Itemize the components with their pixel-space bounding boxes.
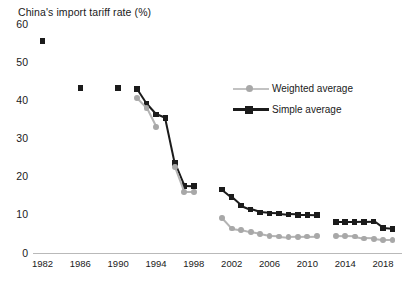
y-tick-label: 60: [2, 19, 28, 30]
x-tick-label: 1998: [174, 259, 214, 269]
data-point-marker: [361, 219, 367, 225]
x-tick-label: 2014: [325, 259, 365, 269]
data-point-marker: [267, 233, 273, 239]
data-point-marker: [352, 219, 358, 225]
data-point-marker: [276, 234, 282, 240]
data-point-marker: [238, 203, 244, 209]
legend-swatch-weighted-average: [233, 83, 269, 95]
data-point-marker: [134, 95, 140, 101]
y-tick-label: 50: [2, 57, 28, 68]
data-point-marker: [295, 212, 301, 218]
data-point-marker: [257, 210, 263, 216]
x-axis-line: [33, 253, 402, 254]
y-tick-label: 10: [2, 209, 28, 220]
data-point-marker: [286, 212, 292, 218]
data-point-marker: [305, 212, 311, 218]
chart-container: China's import tariff rate (%) 010203040…: [0, 0, 406, 295]
data-point-marker: [153, 112, 159, 118]
series-line-segment: [164, 118, 176, 163]
data-point-marker: [333, 233, 339, 239]
legend-label-simple-average: Simple average: [272, 104, 341, 115]
data-point-marker: [352, 234, 358, 240]
plot-area: [33, 24, 402, 253]
data-point-marker: [276, 211, 282, 217]
x-tick-label: 1982: [22, 259, 62, 269]
data-point-marker: [78, 85, 84, 91]
x-tick-label: 2018: [363, 259, 403, 269]
data-point-marker: [342, 233, 348, 239]
data-point-marker: [295, 234, 301, 240]
data-point-marker: [371, 236, 377, 242]
chart-title: China's import tariff rate (%): [18, 6, 151, 18]
x-tick-label: 1986: [60, 259, 100, 269]
legend-swatch-simple-average: [233, 104, 269, 116]
data-point-marker: [390, 237, 396, 243]
data-point-marker: [153, 124, 159, 130]
data-point-marker: [257, 231, 263, 237]
data-point-marker: [172, 164, 178, 170]
x-tick-label: 2006: [250, 259, 290, 269]
data-point-marker: [181, 189, 187, 195]
x-tick-label: 1994: [136, 259, 176, 269]
legend-marker-square-icon: [245, 106, 253, 114]
y-tick-label: 0: [2, 248, 28, 259]
x-tick-label: 2010: [287, 259, 327, 269]
data-point-marker: [238, 227, 244, 233]
y-tick-label: 20: [2, 171, 28, 182]
y-tick-label: 30: [2, 133, 28, 144]
data-point-marker: [115, 85, 121, 91]
data-point-marker: [314, 233, 320, 239]
data-point-marker: [390, 226, 396, 232]
data-point-marker: [267, 211, 273, 217]
data-point-marker: [248, 229, 254, 235]
data-point-marker: [314, 212, 320, 218]
x-tick-label: 1990: [98, 259, 138, 269]
data-point-marker: [380, 225, 386, 231]
data-point-marker: [219, 187, 225, 193]
x-tick-label: 2002: [212, 259, 252, 269]
data-point-marker: [248, 207, 254, 213]
legend-item-weighted-average: Weighted average: [233, 78, 353, 99]
legend-item-simple-average: Simple average: [233, 99, 353, 120]
y-tick-label: 40: [2, 95, 28, 106]
data-point-marker: [333, 219, 339, 225]
data-point-marker: [304, 234, 310, 240]
data-point-marker: [229, 226, 235, 232]
data-point-marker: [286, 234, 292, 240]
data-point-marker: [40, 38, 46, 44]
data-point-marker: [361, 236, 367, 242]
data-point-marker: [191, 189, 197, 195]
data-point-marker: [163, 115, 169, 121]
legend-marker-circle-icon: [246, 85, 253, 92]
data-point-marker: [380, 237, 386, 243]
data-point-marker: [371, 219, 377, 225]
data-point-marker: [134, 86, 140, 92]
legend-label-weighted-average: Weighted average: [272, 83, 353, 94]
data-point-marker: [342, 219, 348, 225]
chart-legend: Weighted average Simple average: [233, 78, 353, 120]
data-point-marker: [229, 194, 235, 200]
